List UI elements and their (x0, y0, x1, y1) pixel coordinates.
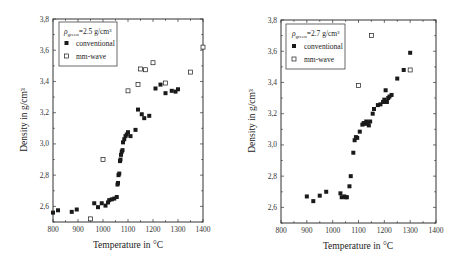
conventional-point (371, 112, 375, 116)
x-tick-label: 1400 (429, 226, 444, 235)
conventional-point (305, 194, 309, 198)
legend-label-mm-wave: mm-wave (304, 55, 335, 64)
x-tick-label: 1100 (351, 226, 366, 235)
legend-open-square-icon (292, 57, 296, 61)
x-axis-title: Temperature in °C (323, 241, 393, 251)
mm-wave-point (151, 61, 155, 65)
conventional-point (117, 172, 121, 176)
conventional-point (324, 190, 328, 194)
conventional-point (121, 148, 125, 152)
y-tick-label: 2,8 (40, 171, 50, 180)
conventional-point (338, 191, 342, 195)
plot-area: 80090010001100120013001400 2,62,83,03,23… (268, 16, 444, 236)
conventional-point (318, 194, 322, 198)
conventional-point (136, 108, 140, 112)
mm-wave-point (164, 81, 168, 85)
y-tick-label: 2,6 (268, 203, 278, 212)
conventional-point (96, 205, 100, 209)
conventional-point (395, 77, 399, 81)
conventional-point (408, 51, 412, 55)
legend-filled-square-icon (292, 44, 296, 48)
conventional-point (390, 93, 394, 97)
conventional-point (159, 83, 163, 87)
mm-wave-point (189, 70, 193, 74)
x-tick-label: 900 (72, 225, 84, 234)
x-tick-label: 1200 (377, 226, 392, 235)
y-tick-label: 3,2 (268, 109, 278, 118)
x-tick-label: 1000 (325, 226, 340, 235)
density-chart-green-2-7: 80090010001100120013001400 2,62,83,03,23… (230, 0, 461, 263)
y-tick-label: 3,6 (40, 46, 50, 55)
conventional-point (134, 128, 138, 132)
conventional-point (372, 107, 376, 111)
x-tick-label: 1100 (121, 225, 136, 234)
legend-open-square-icon (65, 54, 69, 58)
conventional-point (92, 201, 96, 205)
conventional-point (154, 86, 158, 90)
mm-wave-point (408, 68, 412, 72)
conventional-point (142, 116, 146, 120)
conventional-point (119, 158, 123, 162)
y-tick-label: 3,6 (268, 47, 278, 56)
x-tick-label: 1300 (171, 225, 186, 234)
x-tick-label: 1000 (96, 225, 111, 234)
y-tick-label: 2,6 (40, 202, 50, 211)
y-tick-label: 2,8 (268, 172, 278, 181)
x-axis-title: Temperature in °C (93, 240, 163, 250)
conventional-point (402, 68, 406, 72)
x-tick-label: 1400 (196, 225, 211, 234)
conventional-point (355, 136, 359, 140)
conventional-point (349, 174, 353, 178)
data-points (51, 45, 205, 221)
conventional-point (126, 130, 130, 134)
conventional-point (56, 208, 60, 212)
conventional-point (358, 130, 362, 134)
density-chart-green-2-5: 80090010001100120013001400 2,62,83,03,23… (0, 0, 230, 263)
legend-filled-square-icon (65, 41, 69, 45)
mm-wave-point (126, 89, 130, 93)
x-tick-label: 800 (275, 226, 287, 235)
legend-label-mm-wave: mm-wave (76, 52, 107, 61)
conventional-point (385, 100, 389, 104)
mm-wave-point (136, 83, 140, 87)
plot-area: 80090010001100120013001400 2,62,83,03,23… (40, 15, 211, 235)
mm-wave-point (201, 45, 205, 49)
conventional-point (170, 89, 174, 93)
y-axis-title: Density in g/cm³ (247, 89, 257, 153)
conventional-point (115, 195, 119, 199)
x-tick-label: 1200 (146, 225, 161, 234)
chart-right-svg: 80090010001100120013001400 2,62,83,03,23… (230, 0, 461, 263)
y-tick-label: 3,8 (40, 15, 50, 24)
y-tick-label: 3,4 (40, 77, 50, 86)
conventional-point (140, 112, 144, 116)
conventional-point (147, 114, 151, 118)
mm-wave-point (139, 67, 143, 71)
conventional-point (368, 120, 372, 124)
y-tick-label: 3,8 (268, 16, 278, 25)
mm-wave-point (357, 84, 361, 88)
y-tick-label: 3,0 (40, 139, 50, 148)
conventional-point (384, 88, 388, 92)
mm-wave-point (101, 158, 105, 162)
conventional-point (351, 151, 355, 155)
conventional-point (116, 181, 120, 185)
y-tick-label: 3,4 (268, 78, 278, 87)
conventional-point (129, 134, 133, 138)
mm-wave-point (144, 68, 148, 72)
legend-label-conventional: conventional (304, 42, 343, 51)
y-axis-title: Density in g/cm³ (19, 88, 29, 152)
legend: ρgreen=2.5 g/cm³ conventional mm-wave (59, 22, 117, 66)
y-tick-label: 3,2 (40, 108, 50, 117)
x-tick-label: 1300 (403, 226, 418, 235)
conventional-point (75, 208, 79, 212)
x-tick-label: 900 (301, 226, 313, 235)
conventional-point (347, 184, 351, 188)
legend: ρgreen=2.7 g/cm³ conventional mm-wave (286, 24, 345, 69)
conventional-point (345, 195, 349, 199)
conventional-point (176, 87, 180, 91)
conventional-point (164, 91, 168, 95)
conventional-point (311, 199, 315, 203)
conventional-point (367, 123, 371, 127)
conventional-point (70, 210, 74, 214)
chart-left-svg: 80090010001100120013001400 2,62,83,03,23… (0, 0, 230, 263)
